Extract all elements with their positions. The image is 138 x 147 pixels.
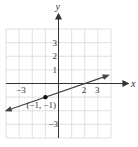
y-tick-label: 1 [53,65,58,75]
point-label: (−1, −1) [26,100,56,110]
tick-labels: xy−323321−3(−1, −1) [16,1,136,129]
x-axis-label: x [130,78,136,89]
y-tick-label: −3 [49,119,59,129]
axes [6,14,128,138]
data-point [43,95,47,99]
y-axis-label: y [55,1,61,12]
coordinate-plane-chart: xy−323321−3(−1, −1) [0,0,138,147]
x-tick-label: 2 [82,85,87,95]
y-tick-label: 3 [53,38,58,48]
y-tick-label: 2 [53,51,58,61]
x-tick-label: −3 [16,85,26,95]
x-tick-label: 3 [95,85,100,95]
